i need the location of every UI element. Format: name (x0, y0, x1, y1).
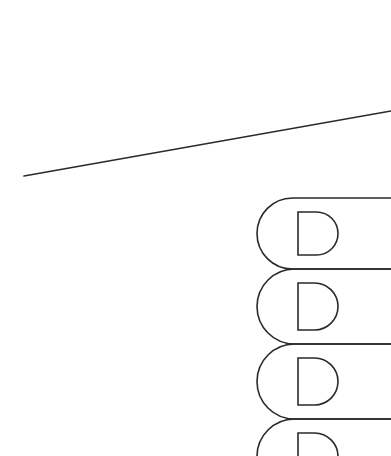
canvas-background (0, 0, 391, 456)
diagram-canvas (0, 0, 391, 456)
line-art-diagram (0, 0, 391, 456)
